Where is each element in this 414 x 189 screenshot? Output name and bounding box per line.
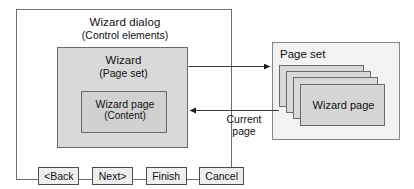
current-page-label: Current page [218,113,270,137]
page-card-front: Wizard page [300,84,385,126]
wizard-structure-diagram: Wizard dialog (Control elements) <Back N… [0,0,414,189]
current-page-label-line1: Current [218,113,270,125]
page-card-front-label: Wizard page [301,99,386,112]
current-page-label-line2: page [218,125,270,137]
